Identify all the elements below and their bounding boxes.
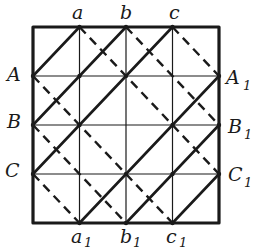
label-left-A: A [5,63,21,85]
dashed-line-a-C1 [80,27,220,174]
grid-lines [33,27,219,223]
label-top-c: c [169,1,180,23]
label-right-C1-subscript: 1 [244,175,252,190]
label-top-a: a [72,1,83,23]
intersection-dot [217,172,221,176]
intersection-dot [217,123,221,127]
intersection-dot [170,123,174,127]
intersection-dot [124,25,128,29]
intersection-dot [170,172,174,176]
label-right-B1-subscript: 1 [244,127,252,142]
grid-diagram: a b c A B C A 1 B 1 C 1 a 1 b 1 c 1 [0,0,255,249]
intersection-dot [77,25,81,29]
solid-line-c1-C1 [173,174,220,223]
dashed-line-C-a1 [33,174,80,223]
label-right-C1: C [228,163,243,185]
intersection-dot [77,74,81,78]
dashed-line-A-c1 [33,76,173,223]
intersection-dot [124,74,128,78]
intersection-dot [77,123,81,127]
label-bottom-a1-subscript: 1 [84,235,92,249]
intersection-dot [124,172,128,176]
intersection-dot [170,25,174,29]
intersection-dot [31,123,35,127]
label-bottom-b1-subscript: 1 [133,235,141,249]
dashed-line-c-A1 [173,27,220,76]
solid-line-A-a [33,27,80,76]
solid-line-C-c [33,27,173,174]
label-right-A1: A [224,66,240,88]
label-bottom-c1: c [166,225,177,247]
label-top-b: b [120,1,132,23]
label-bottom-b1: b [120,225,132,247]
label-left-C: C [5,159,20,181]
label-left-B: B [6,110,21,132]
diagram-canvas: a b c A B C A 1 B 1 C 1 a 1 b 1 c 1 [0,0,255,249]
solid-line-a1-A1 [80,76,220,223]
label-bottom-a1: a [71,225,82,247]
label-right-A1-subscript: 1 [243,78,251,93]
label-right-B1: B [227,115,242,137]
label-bottom-c1-subscript: 1 [179,235,187,249]
intersection-dot [217,74,221,78]
intersection-dot [31,172,35,176]
intersection-dot [31,74,35,78]
